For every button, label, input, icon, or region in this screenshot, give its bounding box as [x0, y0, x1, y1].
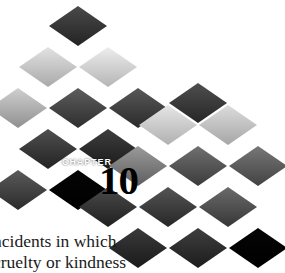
- body-copy-line-1: ncidents in which: [0, 231, 213, 252]
- tile-r1-c1: [79, 47, 137, 87]
- body-copy-line-2: cruelty or kindness: [0, 252, 213, 273]
- tile-r4-c4: [229, 146, 285, 186]
- tile-r0-c1: [49, 6, 107, 46]
- tile-r5-c2: [139, 187, 197, 227]
- body-copy: ncidents in which cruelty or kindness: [0, 231, 213, 273]
- tile-r6-c4: [229, 228, 285, 268]
- chapter-opener-page: CHAPTER 10 ncidents in which cruelty or …: [0, 0, 285, 273]
- chapter-number: 10: [99, 160, 138, 201]
- tile-r1-c0: [19, 47, 77, 87]
- tile-r2-c1: [49, 88, 107, 128]
- tile-r4-c0: [0, 170, 47, 210]
- tile-r4-c3: [169, 146, 227, 186]
- tile-r5-c3: [199, 187, 257, 227]
- tile-r2-c0: [0, 88, 47, 128]
